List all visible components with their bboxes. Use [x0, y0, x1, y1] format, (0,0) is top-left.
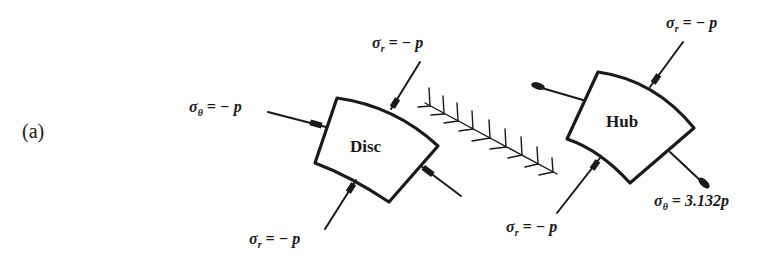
- hub-sigma-theta-right-label: σθ = 3.132p: [654, 192, 729, 212]
- sigma-symbol: σ: [249, 230, 258, 247]
- sigma-symbol: σ: [666, 14, 675, 31]
- hub-arrowhead-left: [530, 81, 545, 92]
- subscript: θ: [663, 201, 668, 212]
- equation-rhs: = − p: [683, 14, 718, 31]
- interface-hatch: [418, 88, 557, 175]
- subscript: r: [381, 43, 385, 54]
- hub-label: Hub: [606, 112, 638, 132]
- hub-sigma-r-top-label: σr = − p: [666, 14, 717, 34]
- equation-rhs: = − p: [523, 218, 558, 235]
- disc-label: Disc: [350, 137, 381, 157]
- subscript: r: [675, 23, 679, 34]
- equation-rhs: = − p: [207, 98, 242, 115]
- equation-rhs: = − p: [266, 230, 301, 247]
- sigma-symbol: σ: [372, 34, 381, 51]
- subscript: r: [258, 239, 262, 250]
- hub-arrow-right: [670, 152, 703, 183]
- equation-rhs: = − p: [389, 34, 424, 51]
- subscript: θ: [198, 107, 203, 118]
- part-label: (a): [22, 120, 44, 143]
- disc-sigma-r-bottom-label: σr = − p: [249, 230, 300, 250]
- sigma-symbol: σ: [189, 98, 198, 115]
- hub-sigma-r-bottom-label: σr = − p: [506, 218, 557, 238]
- subscript: r: [515, 227, 519, 238]
- sigma-symbol: σ: [506, 218, 515, 235]
- disc-sigma-theta-left-label: σθ = − p: [189, 98, 242, 118]
- sigma-symbol: σ: [654, 192, 663, 209]
- disc-sigma-r-top-label: σr = − p: [372, 34, 423, 54]
- figure-canvas: (a) Disc Hub σr = − p σθ = − p σr = − p …: [0, 0, 772, 259]
- equation-rhs: = 3.132p: [672, 192, 729, 209]
